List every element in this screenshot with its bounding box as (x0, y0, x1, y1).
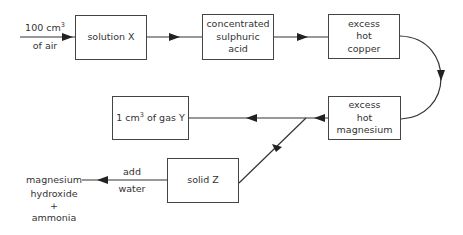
box-sulphuric-acid: concentrated sulphuric acid (202, 14, 274, 60)
box-text: 1 cm3 of gas Y (116, 112, 185, 125)
arrow-copper-to-magnesium (400, 36, 441, 119)
box-solid-z: solid Z (167, 158, 239, 203)
step-label-water: water (112, 183, 152, 195)
box-gas-y: 1 cm3 of gas Y (112, 96, 189, 140)
box-text: excess (348, 18, 380, 31)
product-line: ammonia (22, 212, 86, 224)
step-label-add: add (112, 166, 152, 178)
box-text: magnesium (337, 124, 393, 137)
box-text: hot (356, 30, 372, 43)
box-text: excess (348, 99, 380, 112)
box-text: acid (228, 43, 248, 56)
input-amount-sup: 3 (61, 21, 65, 29)
box-text: concentrated (206, 18, 269, 31)
flow-diagram: 100 cm3 of air solution X concentrated s… (0, 0, 463, 235)
arrow-to-solid-z (239, 118, 306, 183)
input-label: of air (20, 40, 70, 52)
product-line: + (22, 200, 86, 212)
input-amount-text: 100 cm (25, 22, 61, 33)
box-text: solid Z (187, 174, 219, 187)
product-line: magnesium (22, 174, 86, 186)
box-text: solution X (87, 31, 134, 44)
gas-y-prefix: 1 cm (116, 112, 140, 123)
box-hot-copper: excess hot copper (328, 14, 400, 59)
input-amount: 100 cm3 (20, 22, 70, 34)
box-hot-magnesium: excess hot magnesium (328, 96, 401, 140)
box-text: hot (357, 112, 373, 125)
box-solution-x: solution X (75, 15, 147, 60)
gas-y-suffix: of gas Y (144, 112, 185, 123)
box-text: copper (348, 43, 381, 56)
box-text: sulphuric (216, 31, 259, 44)
product-line: hydroxide (22, 188, 86, 200)
